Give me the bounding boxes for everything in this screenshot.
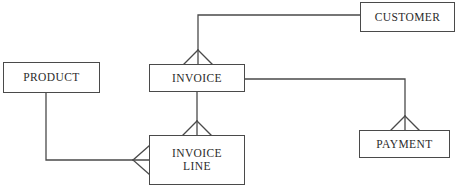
entity-invoice[interactable]: INVOICE <box>149 64 245 92</box>
entity-product[interactable]: PRODUCT <box>3 62 100 93</box>
er-diagram: CUSTOMER PRODUCT INVOICE INVOICE LINE PA… <box>0 0 459 191</box>
entity-customer[interactable]: CUSTOMER <box>360 2 455 32</box>
entity-payment[interactable]: PAYMENT <box>359 130 450 158</box>
connector-customer-invoice <box>198 15 360 64</box>
connector-product-invoiceline <box>46 93 149 160</box>
connector-invoice-payment <box>245 79 405 130</box>
entity-invoice-line[interactable]: INVOICE LINE <box>149 135 245 185</box>
